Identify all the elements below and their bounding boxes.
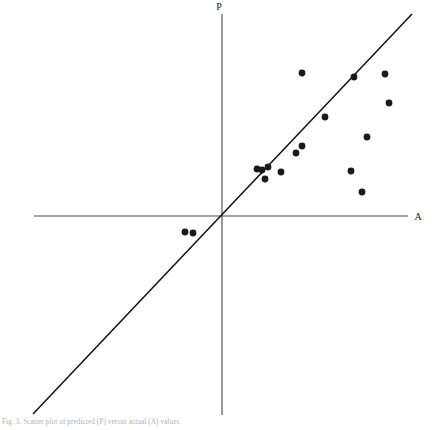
data-point <box>259 167 266 174</box>
data-point <box>278 169 285 176</box>
scatter-plot: P A <box>0 0 433 430</box>
data-point <box>182 229 189 236</box>
figure-caption: Fig. 3. Scatter plot of predicted (P) ve… <box>2 418 431 427</box>
data-point <box>348 168 355 175</box>
data-point <box>382 71 389 78</box>
data-point <box>364 134 371 141</box>
data-point <box>262 176 269 183</box>
data-point <box>299 143 306 150</box>
data-point <box>190 230 197 237</box>
vertical-axis-label: P <box>216 1 222 12</box>
data-point-layer <box>182 70 393 237</box>
data-point <box>265 164 272 171</box>
data-point <box>386 100 393 107</box>
data-point <box>322 114 329 121</box>
data-point <box>359 189 366 196</box>
data-point <box>351 74 358 81</box>
data-point <box>293 150 300 157</box>
horizontal-axis-label: A <box>414 211 422 222</box>
figure-container: P A Fig. 3. Scatter plot of predicted (P… <box>0 0 433 430</box>
data-point <box>299 70 306 77</box>
